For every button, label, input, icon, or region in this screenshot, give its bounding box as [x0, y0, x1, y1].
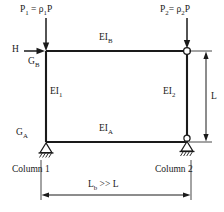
member-label-left-column: EI1 [50, 87, 62, 99]
left-pinned-support-icon [39, 143, 54, 158]
dimension-label-Lb: Lb >> L [88, 180, 119, 192]
frame-diagram-figure: P1 = ρ1P P2= ρ2P H GB GA EIB EIA EI1 EI2… [0, 0, 224, 212]
load-arrow-p2 [184, 18, 190, 49]
joint-label-ga: GA [16, 128, 28, 140]
right-pinned-roller-support-icon [180, 135, 195, 156]
load-label-p2-text: P2= ρ2P [160, 4, 190, 14]
caption-column-1: Column 1 [12, 165, 50, 175]
member-label-bottom-beam: EIA [99, 124, 113, 136]
member-label-right-column: EI2 [163, 87, 175, 99]
load-arrow-p1 [43, 18, 49, 51]
vertical-dimension-L [189, 51, 212, 142]
load-label-p1-text: P1 = ρ1P [20, 4, 52, 14]
load-label-p1: P1 = ρ1P [20, 5, 52, 17]
member-label-top-beam: EIB [99, 33, 113, 45]
caption-column-2: Column 2 [155, 165, 193, 175]
load-label-p2: P2= ρ2P [160, 5, 190, 17]
dimension-label-L: L [211, 92, 217, 102]
joint-label-gb: GB [28, 57, 39, 69]
load-arrow-h [24, 48, 45, 54]
load-label-h: H [12, 45, 19, 55]
